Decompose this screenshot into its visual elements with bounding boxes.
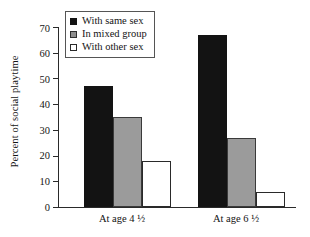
legend-swatch-white-square-icon [70, 44, 77, 51]
legend-swatch-black-square-icon [70, 18, 77, 25]
x-axis-line [58, 207, 296, 208]
bar-group2-with-same-sex [198, 35, 227, 207]
chart-legend: With same sex In mixed group With other … [65, 11, 155, 58]
legend-label-with-same-sex: With same sex [82, 16, 143, 27]
y-tick-label-0: 0 [0, 203, 50, 214]
legend-label-in-mixed-group: In mixed group [82, 29, 147, 40]
legend-label-with-other-sex: With other sex [82, 42, 143, 53]
bar-group1-with-other-sex [142, 161, 171, 207]
y-tick-label-50: 50 [0, 75, 50, 86]
x-axis-label-group1: At age 4 ½ [74, 213, 170, 224]
bar-group1-with-same-sex [84, 86, 113, 207]
bar-group1-in-mixed-group [113, 117, 142, 207]
legend-item-in-mixed-group: In mixed group [70, 28, 147, 41]
legend-swatch-gray-square-icon [70, 31, 77, 38]
y-tick-label-30: 30 [0, 126, 50, 137]
y-tick-label-40: 40 [0, 100, 50, 111]
bar-chart-figure: Percent of social playtime 70 60 50 40 3… [0, 0, 310, 237]
bar-group2-with-other-sex [256, 192, 285, 207]
y-tick-label-60: 60 [0, 49, 50, 60]
x-axis-label-group2: At age 6 ½ [188, 213, 284, 224]
legend-item-with-same-sex: With same sex [70, 15, 147, 28]
y-tick-label-10: 10 [0, 177, 50, 188]
legend-item-with-other-sex: With other sex [70, 41, 147, 54]
bar-group2-in-mixed-group [227, 138, 256, 207]
y-tick-label-20: 20 [0, 151, 50, 162]
y-tick-label-70: 70 [0, 24, 50, 35]
